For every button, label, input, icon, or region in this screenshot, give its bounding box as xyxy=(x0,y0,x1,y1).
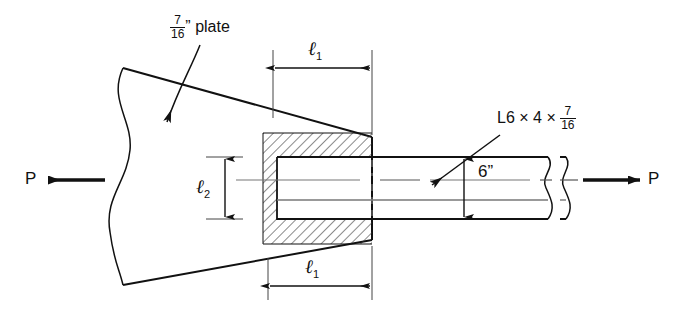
plate-label-leader xyxy=(167,45,200,122)
l1-bottom-symbol: ℓ xyxy=(305,256,313,277)
l1-bottom-subscript: 1 xyxy=(313,268,319,280)
gusset-plate-outline xyxy=(123,68,372,285)
angle-depth-dimension-label: 6” xyxy=(478,163,493,180)
force-label-left: P xyxy=(25,170,36,187)
angle-designation-label: L6 × 4 × 7 16 xyxy=(497,105,576,131)
dimension-l2 xyxy=(206,157,243,219)
plate-thickness-label: 7 16 ” plate xyxy=(170,14,230,40)
drawing-canvas xyxy=(0,0,675,316)
angle-prefix-text: L6 × 4 × xyxy=(497,109,560,126)
plate-unit-symbol: ” xyxy=(185,18,190,35)
force-label-right: P xyxy=(648,170,659,187)
angle-fraction-numerator: 7 xyxy=(560,105,575,119)
angle-thickness-fraction: 7 16 xyxy=(560,105,575,131)
l1-top-subscript: 1 xyxy=(316,50,322,62)
angle-section xyxy=(277,157,570,219)
plate-break-line xyxy=(109,68,130,285)
dimension-label-l1-bottom: ℓ1 xyxy=(305,256,319,280)
plate-fraction-numerator: 7 xyxy=(170,14,185,28)
engineering-drawing-figure: 7 16 ” plate L6 × 4 × 7 16 6” P P ℓ1 ℓ1 … xyxy=(0,0,675,316)
l2-symbol: ℓ xyxy=(196,176,204,197)
plate-thickness-fraction: 7 16 xyxy=(170,14,185,40)
plate-fraction-denominator: 16 xyxy=(170,28,185,41)
dimension-label-l1-top: ℓ1 xyxy=(308,38,322,62)
l1-top-symbol: ℓ xyxy=(308,38,316,59)
dimension-label-l2: ℓ2 xyxy=(196,176,210,200)
plate-label-text: plate xyxy=(195,18,230,35)
l2-subscript: 2 xyxy=(204,188,210,200)
weld-hatch-region xyxy=(263,133,372,244)
angle-fraction-denominator: 16 xyxy=(560,119,575,132)
